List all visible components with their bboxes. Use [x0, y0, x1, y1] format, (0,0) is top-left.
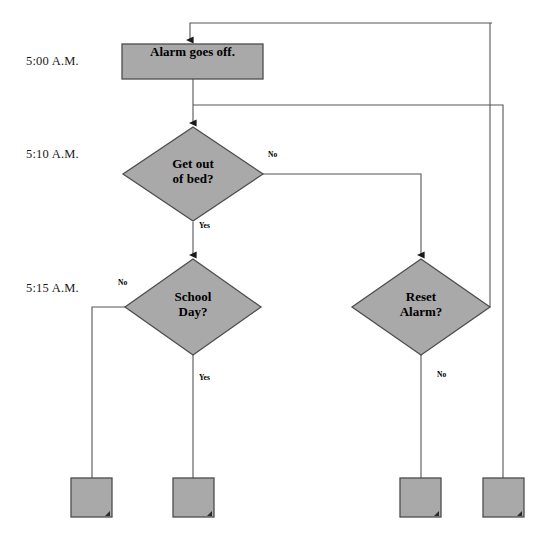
edge-label-bed-no: No — [268, 150, 277, 159]
connector-entry-to-alarm — [190, 23, 492, 40]
flowchart-canvas: 5:00 A.M.5:10 A.M.5:15 A.M. Alarm goes o… — [0, 0, 535, 540]
timeline-label-1: 5:10 A.M. — [26, 147, 79, 162]
connector-bed-no-to-reset — [263, 174, 421, 255]
connector-school-no-to-terminal1 — [92, 307, 125, 478]
edge-label-school-yes: Yes — [199, 373, 210, 382]
node-terminal-2[interactable] — [173, 478, 214, 517]
connector-layer — [92, 23, 503, 478]
timeline-label-2: 5:15 A.M. — [26, 281, 79, 296]
node-shape-layer — [71, 44, 524, 517]
node-reset-alarm[interactable] — [352, 259, 490, 355]
node-school-day[interactable] — [125, 259, 261, 355]
node-terminal-1[interactable] — [71, 478, 112, 517]
node-terminal-4[interactable] — [483, 478, 524, 517]
edge-label-bed-yes: Yes — [199, 221, 210, 230]
node-get-out-of-bed[interactable] — [123, 127, 263, 221]
node-alarm-goes-off[interactable] — [122, 44, 263, 79]
node-terminal-3[interactable] — [400, 478, 441, 517]
timeline-label-0: 5:00 A.M. — [26, 54, 79, 69]
edge-label-school-no: No — [118, 278, 127, 287]
edge-label-reset-no: No — [437, 370, 446, 379]
flowchart-svg — [0, 0, 535, 540]
